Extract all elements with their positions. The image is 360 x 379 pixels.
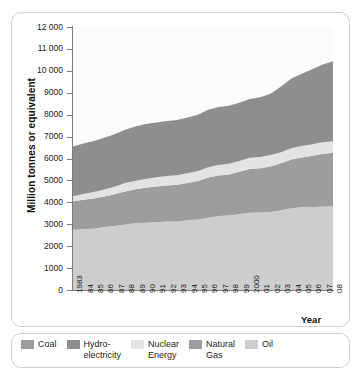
x-tick-label: 2000 — [253, 275, 261, 293]
legend-swatch — [189, 340, 202, 349]
x-tick-label: 08 — [336, 284, 344, 293]
y-axis-line — [72, 26, 73, 291]
x-tick-label: 07 — [326, 284, 334, 293]
x-tick-label: 88 — [128, 284, 136, 293]
legend-item[interactable]: Coal — [11, 339, 57, 350]
x-tick-label: 96 — [211, 284, 219, 293]
x-tick-label: 85 — [97, 284, 105, 293]
x-tick-label: 91 — [159, 284, 167, 293]
x-tick-label: 99 — [243, 284, 251, 293]
legend-item[interactable]: Oil — [235, 339, 273, 350]
legend-swatch — [131, 340, 144, 349]
chart-legend: CoalHydro-electricityNuclearEnergyNatura… — [11, 333, 348, 366]
legend-label: Hydro-electricity — [84, 339, 122, 360]
legend-item[interactable]: Hydro-electricity — [57, 339, 122, 360]
x-tick-label: 97 — [222, 284, 230, 293]
legend-label: NuclearEnergy — [148, 339, 179, 360]
x-tick-label: 95 — [201, 284, 209, 293]
legend-swatch — [21, 340, 34, 349]
legend-swatch — [245, 340, 258, 349]
x-tick-label: 02 — [274, 284, 282, 293]
x-tick-label: 04 — [295, 284, 303, 293]
x-tick-label: 93 — [180, 284, 188, 293]
legend-item[interactable]: NaturalGas — [179, 339, 235, 360]
stacked-area-svg — [73, 27, 333, 290]
legend-label: Oil — [262, 339, 273, 350]
x-tick-label: 94 — [191, 284, 199, 293]
x-tick-label: 84 — [87, 284, 95, 293]
x-tick-label: 90 — [149, 284, 157, 293]
x-tick-label: 05 — [305, 284, 313, 293]
x-tick-label: 1983 — [76, 275, 84, 293]
legend-swatch — [67, 340, 80, 349]
x-tick-label: 98 — [232, 284, 240, 293]
x-tick-label: 89 — [139, 284, 147, 293]
x-axis-title: Year — [301, 314, 321, 325]
x-tick-label: 86 — [107, 284, 115, 293]
plot-area — [73, 27, 333, 290]
y-axis-title: Million tonnes or equivalent — [26, 66, 37, 226]
chart-figure: 12 00011 00010 0009000800070006000500040… — [0, 0, 360, 379]
x-tick-label: 01 — [263, 284, 271, 293]
x-tick-label: 92 — [170, 284, 178, 293]
legend-label: NaturalGas — [206, 339, 235, 360]
legend-item[interactable]: NuclearEnergy — [121, 339, 179, 360]
legend-label: Coal — [38, 339, 57, 350]
x-tick-label: 87 — [118, 284, 126, 293]
x-tick-label: 06 — [315, 284, 323, 293]
x-tick-label: 03 — [284, 284, 292, 293]
